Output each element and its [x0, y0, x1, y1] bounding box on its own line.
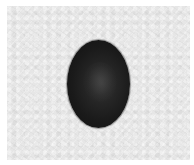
bean-highlight: [83, 62, 117, 102]
paper-background: [7, 6, 190, 160]
bean-seed: [67, 40, 130, 128]
